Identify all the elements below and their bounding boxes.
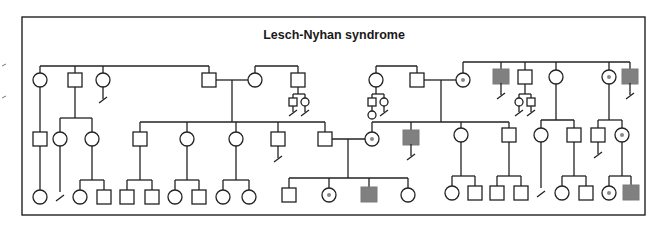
- female-circle-icon: [380, 98, 388, 106]
- affected-male-square-icon: [361, 187, 377, 202]
- male-square-icon: [289, 98, 297, 106]
- margin-tick: [2, 96, 6, 98]
- pedigree-individual-I-14: [622, 69, 638, 99]
- pedigree-individual-I-11: [518, 70, 532, 84]
- pedigree-individual-II-7: [271, 132, 285, 162]
- pedigree-individual-III-16: [468, 186, 482, 200]
- male-square-icon: [202, 73, 216, 87]
- female-circle-icon: [515, 98, 523, 106]
- male-square-icon: [145, 190, 159, 204]
- diagram-frame: [22, 17, 645, 215]
- pedigree-individual-III-9: [216, 190, 230, 204]
- affected-male-square-icon: [623, 185, 639, 200]
- pedigree-individual-III-23: [623, 185, 639, 200]
- pedigree-individual-II-12: [502, 128, 516, 142]
- pedigree-diagram: Lesch-Nyhan syndrome: [0, 0, 669, 227]
- pedigree-individual-I-9: [456, 73, 470, 87]
- female-circle-icon: [301, 98, 309, 106]
- pedigree-individual-III-5: [120, 190, 134, 204]
- pedigree-individual-I-7b: [380, 98, 388, 116]
- pedigree-individual-I-7: [369, 73, 383, 87]
- pedigree-individual-III-4: [97, 190, 111, 204]
- pedigree-individual-II-2: [53, 132, 67, 146]
- pedigree-individual-III-12: [322, 188, 336, 202]
- pedigree-individual-I-1: [33, 73, 47, 87]
- no-offspring-slash: [537, 191, 545, 197]
- pedigree-individual-II-14: [567, 128, 581, 142]
- female-circle-icon: [229, 132, 243, 146]
- female-circle-icon: [248, 73, 262, 87]
- carrier-dot-icon: [370, 137, 374, 141]
- pedigree-individual-II-15: [591, 128, 605, 158]
- male-square-icon: [567, 128, 581, 142]
- pedigree-individual-III-11: [282, 188, 296, 202]
- no-offspring-slash: [56, 195, 64, 201]
- male-square-icon: [410, 73, 424, 87]
- male-square-icon: [192, 190, 206, 204]
- pedigree-individual-II-6: [229, 132, 243, 146]
- affected-male-square-icon: [403, 130, 419, 145]
- margin-tick-marks: [2, 64, 6, 98]
- pedigree-individual-II-8: [318, 132, 332, 146]
- pedigree-individual-II-3: [85, 132, 99, 146]
- pedigree-symbols: [33, 69, 639, 204]
- female-circle-icon: [549, 70, 563, 84]
- male-square-icon: [271, 132, 285, 146]
- female-circle-icon: [180, 132, 194, 146]
- female-circle-icon: [96, 73, 110, 87]
- pedigree-individual-I-11a: [515, 98, 523, 116]
- pedigree-individual-I-6: [291, 73, 305, 87]
- male-square-icon: [291, 73, 305, 87]
- male-square-icon: [579, 186, 593, 200]
- female-circle-icon: [534, 128, 548, 142]
- carrier-dot-icon: [620, 133, 624, 137]
- carrier-dot-icon: [461, 78, 465, 82]
- female-circle-icon: [445, 186, 459, 200]
- pedigree-individual-II-1: [33, 132, 47, 146]
- carrier-dot-icon: [607, 191, 611, 195]
- male-square-icon: [518, 70, 532, 84]
- female-circle-icon: [369, 73, 383, 87]
- female-circle-icon: [73, 190, 87, 204]
- male-square-icon: [133, 132, 147, 146]
- male-square-icon: [68, 73, 82, 87]
- pedigree-individual-I-3: [96, 73, 110, 103]
- pedigree-individual-I-4: [202, 73, 216, 87]
- female-circle-icon: [33, 73, 47, 87]
- pedigree-individual-II-13: [534, 128, 548, 142]
- pedigree-individual-III-3: [73, 190, 87, 204]
- male-square-icon: [33, 132, 47, 146]
- pedigree-individual-III-2: [56, 195, 64, 201]
- male-square-icon: [120, 190, 134, 204]
- female-circle-icon: [53, 132, 67, 146]
- female-circle-icon: [168, 190, 182, 204]
- female-circle-icon: [85, 132, 99, 146]
- pedigree-individual-I-2: [68, 73, 82, 87]
- pedigree-individual-I-13: [602, 70, 616, 84]
- pedigree-individual-I-5: [248, 73, 262, 87]
- pedigree-individual-III-7: [168, 190, 182, 204]
- pedigree-individual-III-6: [145, 190, 159, 204]
- diagram-title: Lesch-Nyhan syndrome: [263, 28, 405, 42]
- male-square-icon: [468, 186, 482, 200]
- pedigree-individual-II-11: [454, 128, 468, 142]
- male-square-icon: [97, 190, 111, 204]
- female-circle-icon: [242, 190, 256, 204]
- margin-tick: [2, 64, 6, 66]
- affected-male-square-icon: [493, 69, 509, 84]
- male-square-icon: [527, 98, 535, 106]
- pedigree-lines: [40, 62, 631, 192]
- pedigree-individual-II-16: [615, 128, 629, 142]
- female-circle-icon: [555, 186, 569, 200]
- pedigree-individual-III-15: [445, 186, 459, 200]
- affected-male-square-icon: [622, 69, 638, 84]
- pedigree-individual-I-8: [410, 73, 424, 87]
- pedigree-individual-I-12: [549, 70, 563, 84]
- male-square-icon: [490, 186, 504, 200]
- male-square-icon: [368, 98, 376, 106]
- female-circle-icon: [33, 190, 47, 204]
- female-circle-icon: [368, 111, 376, 119]
- pedigree-individual-I-6b: [301, 98, 309, 116]
- female-circle-icon: [216, 190, 230, 204]
- pedigree-individual-II-9: [365, 132, 379, 146]
